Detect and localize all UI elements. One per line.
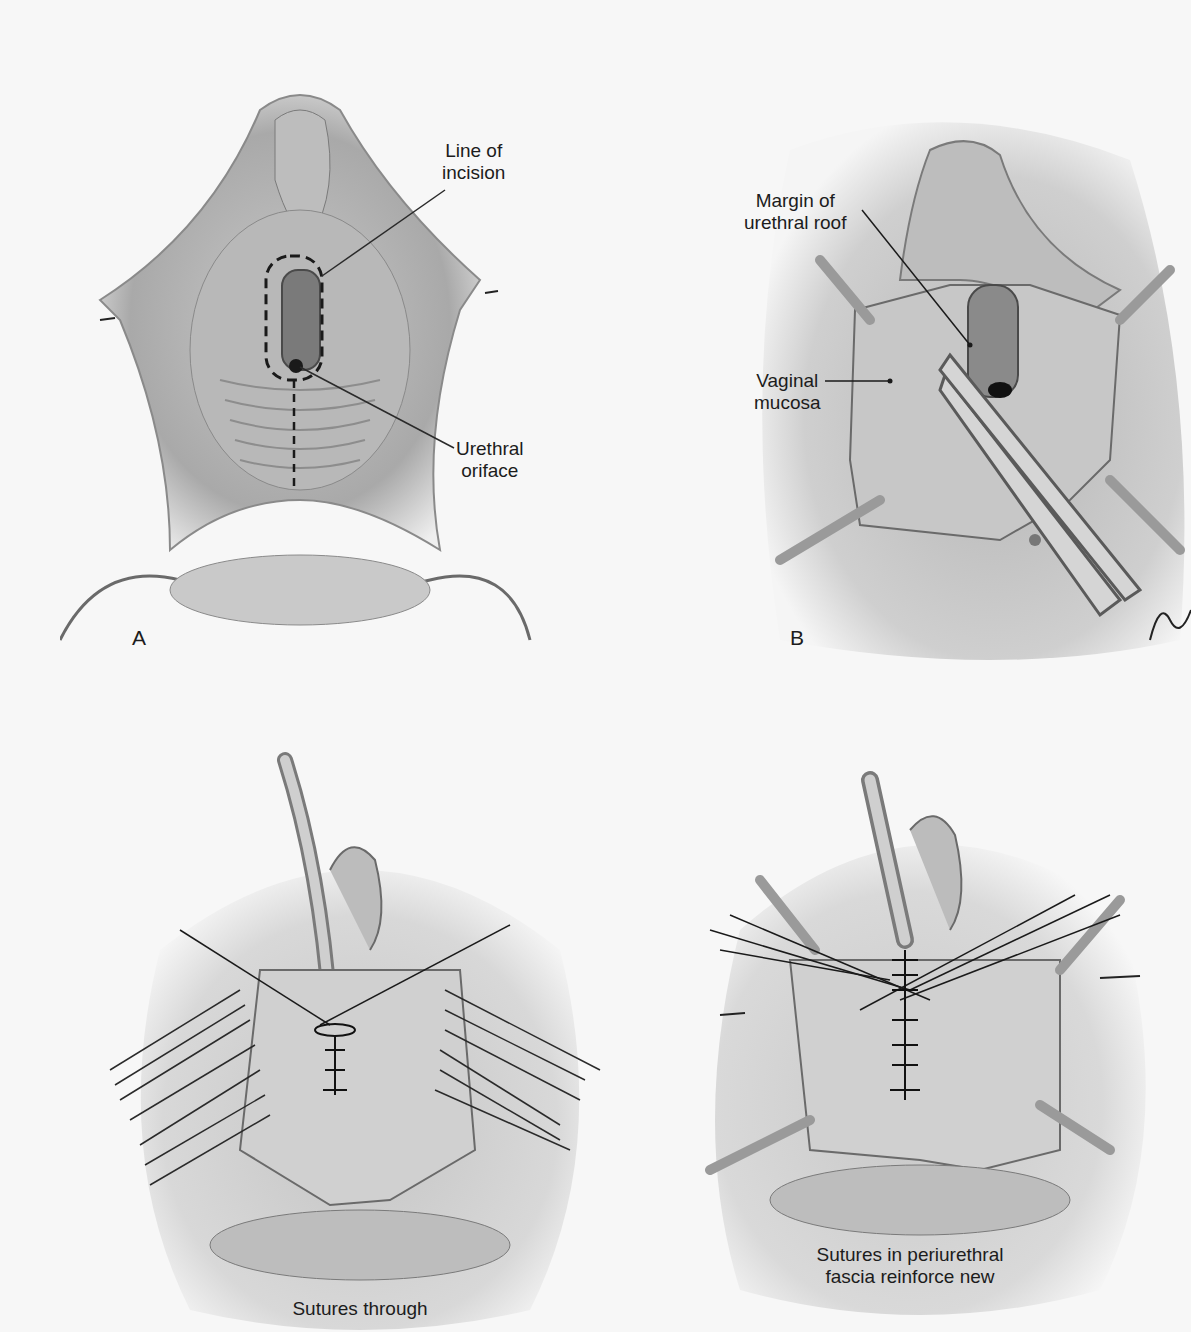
label-line-1: Urethral (456, 438, 524, 460)
panel-letter-b: B (790, 626, 804, 650)
label-line-1: Vaginal (754, 370, 821, 392)
label-line-2: oriface (456, 460, 524, 482)
label-margin-of-urethral-roof: Margin of urethral roof (744, 190, 846, 234)
label-line-of-incision: Line of incision (442, 140, 505, 184)
panel-c: Sutures through (90, 750, 630, 1332)
panel-letter-a: A (132, 626, 146, 650)
label-line-2: mucosa (754, 392, 821, 414)
panel-d: Sutures in periurethral fascia reinforce… (680, 750, 1191, 1332)
label-line-1: Line of (442, 140, 505, 162)
caption-panel-c: Sutures through (270, 1298, 450, 1320)
panel-c-illustration (90, 750, 630, 1332)
caption-line-1: Sutures through (270, 1298, 450, 1320)
caption-panel-d: Sutures in periurethral fascia reinforce… (790, 1244, 1030, 1288)
label-urethral-oriface: Urethral oriface (456, 438, 524, 482)
caption-line-2: fascia reinforce new (790, 1266, 1030, 1288)
label-line-2: incision (442, 162, 505, 184)
label-line-1: Margin of (744, 190, 846, 212)
panel-a: Line of incision Urethral oriface A (60, 80, 560, 680)
panel-b: Margin of urethral roof Vaginal mucosa B (700, 80, 1191, 700)
label-vaginal-mucosa: Vaginal mucosa (754, 370, 821, 414)
label-line-2: urethral roof (744, 212, 846, 234)
caption-line-1: Sutures in periurethral (790, 1244, 1030, 1266)
